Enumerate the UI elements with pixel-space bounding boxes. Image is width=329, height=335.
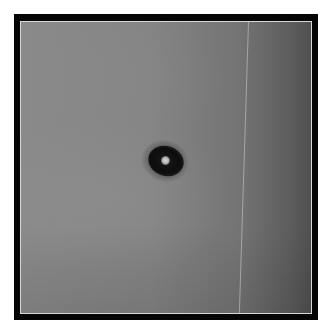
particle-bright-core <box>161 156 170 165</box>
image-frame <box>14 14 318 320</box>
image-inner-border <box>20 21 312 314</box>
caption <box>0 322 329 335</box>
